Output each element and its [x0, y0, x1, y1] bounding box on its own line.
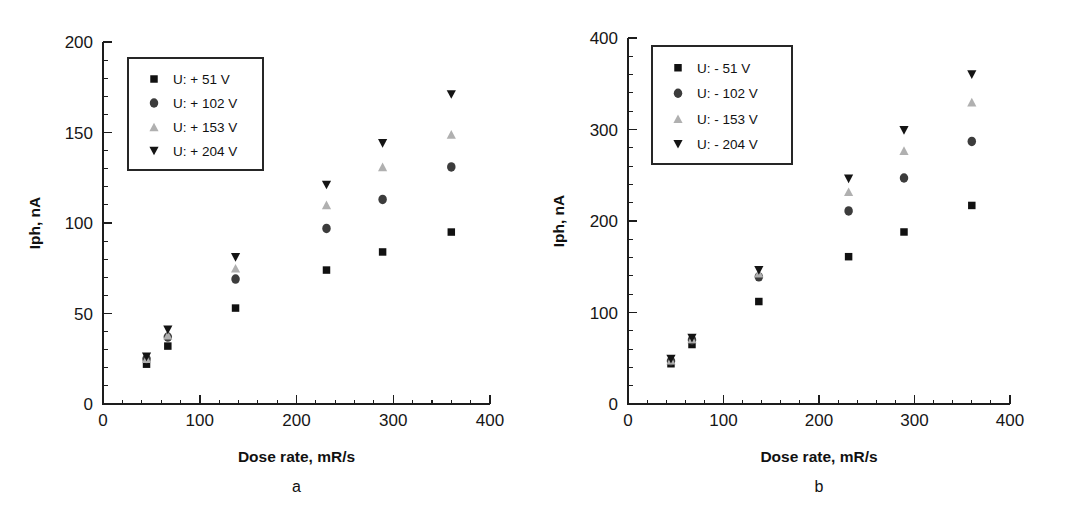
chart-panel-b: 01002003004000100200300400Dose rate, mR/…	[534, 0, 1068, 521]
series-1	[667, 202, 975, 368]
data-point	[968, 137, 977, 147]
x-axis-title: Dose rate, mR/s	[238, 448, 355, 465]
data-point	[968, 202, 975, 209]
data-point	[378, 195, 387, 205]
data-point	[900, 173, 909, 183]
data-point	[899, 146, 908, 155]
legend-label: U: + 153 V	[173, 120, 237, 135]
data-point	[322, 201, 331, 210]
y-axis-ticks: 0100200300400	[590, 29, 637, 414]
data-point	[232, 304, 239, 311]
data-point	[899, 126, 908, 135]
data-point	[164, 342, 171, 349]
legend-marker-icon	[674, 88, 683, 98]
data-point	[448, 228, 455, 235]
data-point	[231, 264, 240, 273]
panel-caption-b: b	[815, 478, 824, 495]
legend-marker-icon	[150, 98, 159, 108]
y-tick-label: 400	[590, 29, 618, 48]
x-tick-label: 300	[379, 411, 407, 430]
data-point	[163, 325, 172, 334]
data-point	[447, 130, 456, 139]
data-point	[844, 206, 853, 216]
legend-marker-icon	[674, 64, 681, 71]
legend: U: + 51 VU: + 102 VU: + 153 VU: + 204 V	[128, 58, 263, 170]
data-point	[322, 224, 331, 234]
plot-area-b: 01002003004000100200300400Dose rate, mR/…	[534, 0, 1068, 521]
x-tick-label: 100	[186, 411, 214, 430]
y-tick-label: 150	[65, 124, 93, 143]
y-tick-label: 100	[65, 214, 93, 233]
data-point	[844, 175, 853, 184]
y-tick-label: 100	[590, 304, 618, 323]
data-point	[755, 298, 762, 305]
y-axis-ticks: 050100150200	[65, 33, 112, 414]
x-tick-label: 400	[996, 411, 1024, 430]
x-tick-label: 0	[98, 411, 107, 430]
x-axis-title: Dose rate, mR/s	[760, 448, 877, 465]
data-point	[967, 70, 976, 79]
y-tick-label: 200	[590, 212, 618, 231]
x-axis-ticks: 0100200300400	[98, 395, 504, 430]
legend: U: - 51 VU: - 102 VU: - 153 VU: - 204 V	[652, 46, 792, 164]
data-point	[231, 253, 240, 262]
x-tick-label: 400	[476, 411, 504, 430]
data-point	[379, 248, 386, 255]
data-point	[845, 253, 852, 260]
data-point	[231, 274, 240, 284]
y-tick-label: 300	[590, 121, 618, 140]
series-1	[143, 228, 455, 368]
figure-root: 0100200300400050100150200Dose rate, mR/s…	[0, 0, 1068, 521]
y-tick-label: 200	[65, 33, 93, 52]
legend-label: U: - 51 V	[697, 61, 750, 76]
plot-area-a: 0100200300400050100150200Dose rate, mR/s…	[0, 0, 534, 521]
chart-panel-a: 0100200300400050100150200Dose rate, mR/s…	[0, 0, 534, 521]
data-point	[322, 181, 331, 190]
legend-label: U: + 204 V	[173, 144, 237, 159]
x-tick-label: 200	[805, 411, 833, 430]
series-2	[667, 137, 976, 366]
legend-label: U: - 204 V	[697, 137, 758, 152]
x-tick-label: 0	[623, 411, 632, 430]
panel-caption-a: a	[292, 478, 301, 495]
legend-marker-icon	[150, 75, 157, 82]
x-tick-label: 100	[709, 411, 737, 430]
data-point	[447, 162, 456, 172]
y-tick-label: 50	[74, 305, 93, 324]
y-tick-label: 0	[84, 395, 93, 414]
data-point	[378, 163, 387, 172]
series-2	[142, 162, 455, 363]
x-tick-label: 300	[900, 411, 928, 430]
legend-label: U: + 51 V	[173, 72, 230, 87]
data-point	[378, 139, 387, 148]
data-point	[967, 98, 976, 107]
data-point	[754, 266, 763, 275]
y-axis-title: Iph, nA	[26, 197, 43, 250]
data-point	[323, 266, 330, 273]
legend-label: U: - 153 V	[697, 112, 758, 127]
legend-label: U: - 102 V	[697, 86, 758, 101]
y-tick-label: 0	[609, 395, 618, 414]
x-tick-label: 200	[282, 411, 310, 430]
x-axis-ticks: 0100200300400	[623, 395, 1024, 430]
data-point	[900, 228, 907, 235]
data-point	[447, 90, 456, 99]
legend-label: U: + 102 V	[173, 96, 237, 111]
y-axis-title: Iph, nA	[550, 195, 567, 248]
data-point	[844, 187, 853, 196]
